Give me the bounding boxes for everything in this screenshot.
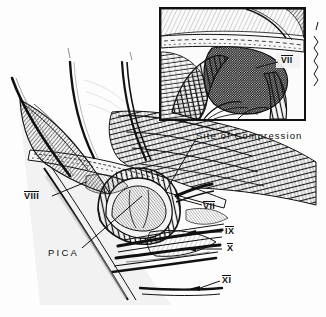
label-site-of-compression: Site of Compression — [196, 130, 302, 141]
label-nerve-viii: VIII — [24, 191, 39, 201]
surgical-illustration — [0, 0, 326, 317]
label-pica: PICA — [48, 247, 79, 258]
label-nerve-vii-inset: VII — [281, 55, 293, 65]
label-nerve-vii-main: VII — [203, 201, 215, 211]
label-nerve-x: X — [227, 243, 233, 253]
label-nerve-xi: XI — [222, 275, 231, 285]
label-nerve-ix: IX — [225, 226, 234, 236]
